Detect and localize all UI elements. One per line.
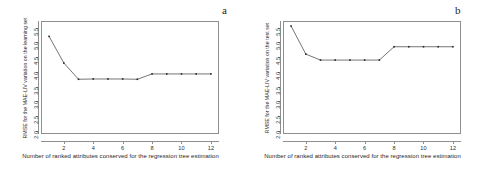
data-point-b-10 (437, 46, 439, 48)
x-tick-a-2 (123, 141, 124, 144)
y-tick-label-b-7: 5.5 (275, 28, 281, 40)
x-axis-label-a: Number of ranked attributes conserved fo… (0, 153, 241, 159)
y-tick-label-b-6: 5.0 (275, 42, 281, 54)
data-point-b-11 (452, 46, 454, 48)
data-point-b-2 (320, 59, 322, 61)
y-tick-label-a-1: 2.5 (33, 116, 39, 128)
data-point-a-6 (137, 78, 139, 80)
data-point-a-9 (181, 73, 183, 75)
data-point-b-3 (334, 59, 336, 61)
series-b (283, 21, 461, 134)
data-point-b-5 (364, 59, 366, 61)
panel-a: a RMSE for the MAE-LIV variation on the … (0, 0, 241, 171)
series-line-b (291, 26, 453, 60)
y-axis-label-b: RMSE for the MAE-LIV variation on the te… (262, 21, 272, 134)
x-tick-label-b-3: 8 (393, 145, 396, 151)
data-point-a-0 (48, 36, 50, 38)
data-point-a-3 (92, 78, 94, 80)
x-tick-b-2 (365, 141, 366, 144)
x-tick-label-b-4: 10 (420, 145, 426, 151)
y-tick-label-a-7: 5.5 (33, 28, 39, 40)
x-tick-a-5 (211, 141, 212, 144)
data-point-b-4 (349, 59, 351, 61)
data-point-a-2 (78, 78, 80, 80)
y-tick-label-b-0: 2.0 (275, 131, 281, 143)
data-point-b-0 (290, 25, 292, 27)
x-axis-label-b: Number of ranked attributes conserved fo… (242, 153, 483, 159)
y-tick-label-a-2: 3.0 (33, 101, 39, 113)
x-tick-label-b-5: 12 (450, 145, 456, 151)
panel-tag-a: a (222, 5, 227, 16)
y-tick-label-a-4: 4.0 (33, 72, 39, 84)
data-point-a-8 (166, 73, 168, 75)
x-tick-label-a-0: 2 (62, 145, 65, 151)
x-tick-b-1 (335, 141, 336, 144)
x-tick-a-0 (64, 141, 65, 144)
x-tick-a-1 (93, 141, 94, 144)
y-tick-label-a-0: 2.0 (33, 131, 39, 143)
x-axis-line-a: 24681012 (41, 141, 219, 142)
y-tick-label-a-5: 4.5 (33, 57, 39, 69)
x-tick-b-0 (306, 141, 307, 144)
data-point-a-1 (63, 62, 65, 64)
x-tick-label-a-4: 10 (178, 145, 184, 151)
data-point-a-4 (107, 78, 109, 80)
x-tick-b-3 (394, 141, 395, 144)
y-tick-label-b-1: 2.5 (275, 116, 281, 128)
x-tick-a-4 (181, 141, 182, 144)
figure-two-panel-rmse: a RMSE for the MAE-LIV variation on the … (0, 0, 483, 171)
x-tick-label-a-5: 12 (208, 145, 214, 151)
data-point-b-7 (393, 46, 395, 48)
y-tick-label-b-3: 3.5 (275, 87, 281, 99)
x-tick-label-a-2: 6 (121, 145, 124, 151)
y-tick-label-b-4: 4.0 (275, 72, 281, 84)
x-tick-a-3 (152, 141, 153, 144)
data-point-b-1 (305, 53, 307, 55)
data-point-a-10 (195, 73, 197, 75)
data-point-a-11 (210, 73, 212, 75)
y-tick-label-a-6: 5.0 (33, 42, 39, 54)
x-tick-label-b-1: 4 (334, 145, 337, 151)
series-a (41, 21, 219, 134)
panel-b: b RMSE for the MAE-LIV variation on the … (242, 0, 483, 171)
x-tick-label-b-0: 2 (304, 145, 307, 151)
x-tick-b-5 (453, 141, 454, 144)
series-line-a (49, 36, 211, 79)
y-axis-label-a: RMSE for the MAE-LIV variation on the le… (20, 21, 30, 134)
data-point-b-9 (423, 46, 425, 48)
data-point-b-8 (408, 46, 410, 48)
panel-tag-b: b (455, 5, 461, 16)
y-tick-label-a-3: 3.5 (33, 87, 39, 99)
data-point-a-7 (151, 73, 153, 75)
y-tick-label-b-5: 4.5 (275, 57, 281, 69)
data-point-b-6 (379, 59, 381, 61)
x-tick-label-a-1: 4 (92, 145, 95, 151)
x-tick-label-a-3: 8 (151, 145, 154, 151)
y-tick-label-b-2: 3.0 (275, 101, 281, 113)
data-point-a-5 (122, 78, 124, 80)
x-tick-label-b-2: 6 (363, 145, 366, 151)
x-axis-line-b: 24681012 (283, 141, 461, 142)
x-tick-b-4 (423, 141, 424, 144)
